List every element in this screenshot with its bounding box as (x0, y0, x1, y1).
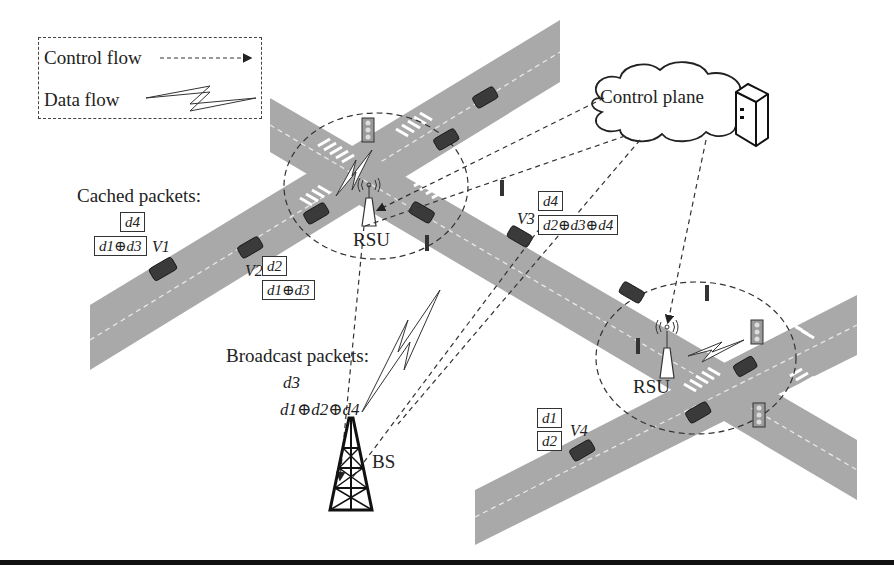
rsu-1-label: RSU (353, 230, 390, 249)
v1-packet-1: d4 (120, 212, 145, 232)
legend-data-flow-label: Data flow (44, 90, 119, 109)
traffic-light-icon (362, 118, 374, 142)
v1-label: V1 (152, 238, 170, 256)
v4-label: V4 (570, 422, 588, 440)
bs-label: BS (372, 452, 395, 471)
bs-tower-icon (330, 418, 372, 510)
v4-packet-1: d1 (537, 408, 562, 428)
v3-label: V3 (517, 210, 535, 228)
broadcast-packet-2: d1⊕d2⊕d4 (280, 401, 360, 418)
v2-packet-2: d1⊕d3 (262, 280, 315, 300)
cached-packets-title: Cached packets: (77, 186, 201, 205)
v4-packet-2: d2 (537, 431, 562, 451)
server-icon (736, 84, 768, 146)
rsu-2-label: RSU (633, 377, 670, 396)
control-plane-label: Control plane (600, 87, 704, 106)
broadcast-packets-title: Broadcast packets: (226, 346, 369, 365)
v2-packet-1: d2 (262, 256, 287, 276)
v3-packet-1: d4 (538, 191, 563, 211)
v1-packet-2: d1⊕d3 (94, 236, 147, 256)
v3-packet-2: d2⊕d3⊕d4 (538, 215, 618, 235)
traffic-light-icon (751, 320, 763, 344)
legend-control-flow-label: Control flow (44, 48, 142, 67)
broadcast-packet-1: d3 (283, 374, 300, 391)
traffic-light-icon (753, 403, 765, 427)
bottom-divider (0, 560, 894, 565)
data-flow-bolt-bs (362, 290, 440, 412)
v2-label: V2 (245, 262, 263, 280)
